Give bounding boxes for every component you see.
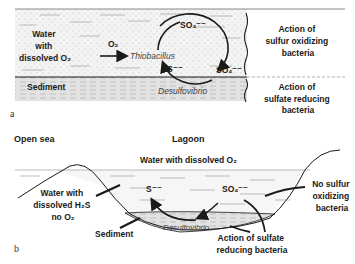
thiobacillus-label: Thiobacillus [130,51,176,61]
no-sulfur-label: No sulfur oxidizing bacteria [312,179,352,213]
panel-b-letter: b [14,243,19,254]
sulfate-right-label: SO₄⁻⁻ [216,65,242,75]
desulfovibrio-label-a: Desulfovibrio [158,86,207,96]
desulfovibrio-label-b: Desulfovibrio [163,223,210,232]
sediment-label-a: Sediment [27,82,65,92]
action-oxidizing-label: Action of sulfur oxidizing bacteria [265,24,330,58]
sulfur-cycle-diagram: Water with dissolved O₂ O₂ Thiobacillus … [0,0,355,264]
panel-a: Water with dissolved O₂ O₂ Thiobacillus … [10,9,345,119]
panel-a-letter: a [10,108,15,119]
sediment-label-b: Sediment [95,229,133,239]
o2-label: O₂ [108,39,119,49]
sulfide-label-b: S⁻⁻ [146,184,162,194]
water-o2-label: Water with dissolved O₂ [140,155,237,165]
sediment-pointer [120,218,140,228]
sulfate-top-label: SO₄⁻⁻ [180,20,206,30]
lagoon-label: Lagoon [172,134,205,144]
panel-b: Open sea Lagoon Water with dissolved O₂ … [14,134,352,255]
action-pointer-2 [230,226,250,232]
open-sea-label: Open sea [14,134,56,144]
sulfide-label-a: S⁻⁻ [167,64,183,74]
action-reducing-label: Action of sulfate reducing bacteria [264,82,332,115]
sulfate-label-b: SO₄⁻⁻ [222,184,248,194]
water-h2s-label: Water with dissolved H₂S no O₂ [33,188,93,222]
action-reducing-b-label: Action of sulfate reducing bacteria [217,233,288,255]
